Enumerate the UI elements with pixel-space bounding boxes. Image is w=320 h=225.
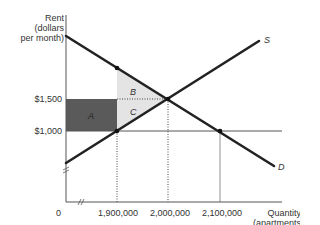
- supply-label: S: [264, 35, 270, 45]
- y-axis-title: Rent (dollars per month): [20, 13, 64, 43]
- x-axis-title: Quantity (apartments per month): [253, 208, 300, 225]
- point-supply-at-ceiling: [115, 129, 120, 134]
- y-axis-title-line-2: (dollars: [20, 23, 64, 33]
- x-tick-1900000: 1,900,000: [98, 208, 138, 218]
- region-a-label: A: [88, 111, 94, 121]
- y-tick-1500: $1,500: [34, 94, 62, 104]
- y-axis-title-line-1: Rent: [20, 13, 64, 23]
- x-axis-title-line-2: (apartments: [253, 218, 300, 225]
- point-demand-at-1900000: [115, 66, 120, 71]
- region-b-label: B: [130, 87, 136, 97]
- x-tick-0: 0: [56, 208, 61, 218]
- x-tick-2100000: 2,100,000: [202, 208, 242, 218]
- y-axis-title-line-3: per month): [20, 33, 64, 43]
- x-axis-title-line-1: Quantity: [253, 208, 300, 218]
- demand-label: D: [278, 162, 285, 172]
- point-demand-at-ceiling: [218, 129, 223, 134]
- point-equilibrium: [166, 97, 171, 102]
- y-tick-1000: $1,000: [34, 126, 62, 136]
- x-tick-2000000: 2,000,000: [150, 208, 190, 218]
- region-c-label: C: [130, 107, 137, 117]
